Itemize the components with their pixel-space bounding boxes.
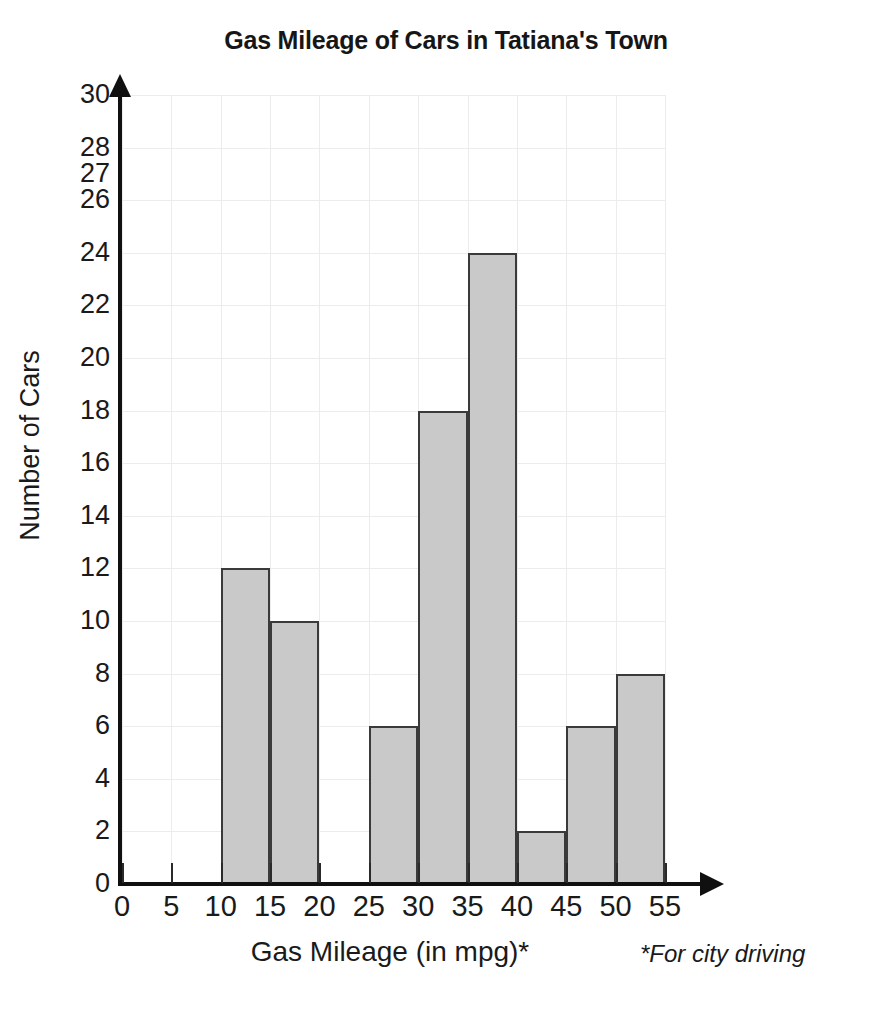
gridline-horizontal [122,621,665,622]
chart-title: Gas Mileage of Cars in Tatiana's Town [0,26,892,55]
gridline-horizontal [122,674,665,675]
x-axis-tick [468,863,470,883]
gridline-vertical [517,95,518,884]
histogram-bar [616,674,665,884]
gridline-horizontal [122,148,665,149]
y-axis-tick-label: 28 [50,134,110,161]
y-axis-tick-label: 26 [50,186,110,213]
gridline-vertical [665,95,666,884]
y-axis-tick-label: 14 [50,502,110,529]
y-axis-tick-label: 8 [50,660,110,687]
x-axis-tick [122,863,124,883]
y-axis-arrow-icon [109,74,131,97]
y-axis-line [118,92,122,886]
histogram-bar [270,621,319,884]
x-axis-tick [171,863,173,883]
histogram-bar [517,831,566,884]
x-axis-tick [270,863,272,883]
x-axis-tick [616,863,618,883]
gridline-horizontal [122,568,665,569]
footnote: *For city driving [640,940,890,968]
x-axis-tick [418,863,420,883]
gridline-horizontal [122,411,665,412]
x-axis-tick [665,863,667,883]
y-axis-tick-label: 4 [50,765,110,792]
plot-area [122,95,665,884]
gridline-horizontal [122,95,665,96]
gridline-vertical [319,95,320,884]
gridline-horizontal [122,305,665,306]
y-axis-tick-labels: 02468101214161820222426272830 [46,0,110,1013]
gridline-horizontal [122,516,665,517]
gridline-horizontal [122,463,665,464]
histogram-bar [468,253,517,884]
y-axis-tick-label: 22 [50,291,110,318]
x-axis-arrow-icon [700,872,724,896]
y-axis-tick-label: 30 [50,81,110,108]
y-axis-tick-label: 20 [50,344,110,371]
x-axis-tick [369,863,371,883]
x-axis-tick [517,863,519,883]
y-axis-tick-label: 18 [50,397,110,424]
y-axis-title: Number of Cars [15,316,46,576]
histogram-bar [369,726,418,884]
x-axis-tick [221,863,223,883]
gridline-horizontal [122,358,665,359]
gridline-horizontal [122,200,665,201]
gridline-vertical [171,95,172,884]
y-axis-tick-label: 12 [50,554,110,581]
y-axis-tick-label: 6 [50,712,110,739]
y-axis-tick-label: 27 [50,160,110,187]
y-axis-tick-label: 24 [50,239,110,266]
histogram-chart: Gas Mileage of Cars in Tatiana's Town 02… [0,0,892,1013]
y-axis-tick-label: 10 [50,607,110,634]
histogram-bar [566,726,615,884]
gridline-vertical [122,95,123,884]
x-axis-tick [319,863,321,883]
y-axis-tick-label: 16 [50,449,110,476]
gridline-horizontal [122,253,665,254]
histogram-bar [418,411,467,884]
y-axis-tick-label: 2 [50,817,110,844]
x-axis-tick [566,863,568,883]
x-axis-tick-label: 55 [635,892,695,921]
x-axis-title: Gas Mileage (in mpg)* [180,936,600,968]
histogram-bar [221,568,270,884]
